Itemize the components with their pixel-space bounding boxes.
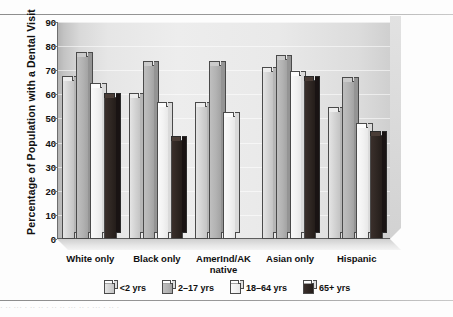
bar — [262, 71, 275, 239]
bar — [76, 56, 89, 239]
bar-top-face — [157, 102, 168, 107]
y-tick-mark — [52, 239, 57, 240]
bar — [171, 140, 184, 239]
bar — [157, 106, 170, 239]
gridline — [58, 22, 390, 23]
y-tick-label: 50 — [16, 113, 56, 124]
bar-chart-figure: Percentage of Population with a Dental V… — [0, 16, 453, 298]
gridline — [58, 46, 390, 47]
bar-top-face — [76, 52, 87, 57]
bar-side-face — [182, 136, 187, 233]
y-tick-label: 40 — [16, 137, 56, 148]
bottom-cutoff-text: · ·· ··· · ·· ·· · ·· ·· ··· ·· · ··· · … — [0, 303, 453, 317]
legend-item[interactable]: 2–17 yrs — [162, 283, 214, 294]
legend-swatch — [104, 283, 115, 294]
chart-legend: <2 yrs2–17 yrs18–64 yrs65+ yrs — [57, 278, 397, 298]
bar-top-face — [304, 76, 315, 81]
legend-item[interactable]: <2 yrs — [104, 283, 146, 294]
bar-top-face — [195, 102, 206, 107]
y-tick-label: 60 — [16, 89, 56, 100]
bar — [276, 59, 289, 239]
bar-side-face — [382, 131, 387, 233]
y-tick-mark — [52, 191, 57, 192]
bar-top-face — [262, 67, 273, 72]
legend-swatch — [303, 283, 314, 294]
bar — [209, 65, 222, 239]
bar — [129, 97, 142, 239]
y-tick-label: 20 — [16, 185, 56, 196]
y-tick-label: 70 — [16, 65, 56, 76]
top-divider-rule — [0, 14, 453, 15]
legend-label: 18–64 yrs — [246, 283, 287, 293]
legend-item[interactable]: 65+ yrs — [303, 283, 350, 294]
plot-depth-right — [390, 16, 401, 239]
bar-top-face — [209, 61, 220, 66]
bar — [195, 106, 208, 239]
y-tick-mark — [52, 143, 57, 144]
y-tick-mark — [52, 118, 57, 119]
legend-swatch — [230, 283, 241, 294]
y-tick-mark — [52, 22, 57, 23]
bar-top-face — [342, 77, 353, 82]
bar-top-face — [143, 61, 154, 66]
plot-base-shelf — [57, 239, 401, 250]
y-tick-mark — [52, 167, 57, 168]
bar-top-face — [129, 93, 140, 98]
bar-top-face — [356, 123, 367, 128]
bar — [342, 81, 355, 239]
bar-top-face — [328, 107, 339, 112]
y-tick-mark — [52, 94, 57, 95]
legend-swatch — [162, 283, 173, 294]
bar-top-face — [62, 76, 73, 81]
bar — [104, 97, 117, 239]
y-tick-label: 10 — [16, 209, 56, 220]
bar — [90, 87, 103, 239]
y-tick-mark — [52, 46, 57, 47]
legend-label: 65+ yrs — [319, 283, 350, 293]
bar-top-face — [290, 71, 301, 76]
bar-top-face — [370, 131, 381, 136]
bar-top-face — [104, 93, 115, 98]
bar — [143, 65, 156, 239]
y-tick-mark — [52, 215, 57, 216]
bar — [62, 80, 75, 239]
x-category-label: Hispanic — [315, 253, 398, 264]
bar — [356, 127, 369, 239]
y-tick-label: 80 — [16, 41, 56, 52]
bottom-divider-rule — [0, 300, 453, 301]
y-tick-label: 30 — [16, 161, 56, 172]
bar — [370, 135, 383, 239]
y-tick-label: 90 — [16, 17, 56, 28]
bar-side-face — [235, 112, 240, 233]
figure-page: · ·· ··· · ·· ·· · ·· ·· ··· ·· · ··· · … — [0, 0, 453, 317]
bar-side-face — [116, 93, 121, 233]
legend-item[interactable]: 18–64 yrs — [230, 283, 287, 294]
bar-top-face — [90, 83, 101, 88]
bar-side-face — [315, 76, 320, 233]
bar-top-face — [171, 136, 182, 141]
legend-label: <2 yrs — [120, 283, 146, 293]
legend-label: 2–17 yrs — [178, 283, 214, 293]
bar — [290, 75, 303, 239]
bar-top-face — [223, 112, 234, 117]
bar — [223, 116, 236, 239]
y-tick-label: 0 — [16, 234, 56, 245]
y-tick-mark — [52, 70, 57, 71]
bar-top-face — [276, 55, 287, 60]
bar — [328, 111, 341, 239]
bar — [304, 80, 317, 239]
